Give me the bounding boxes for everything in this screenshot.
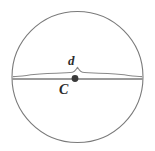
diameter-label: d [68,54,75,67]
diameter-brace-curve [13,67,142,76]
center-label: C [59,83,68,97]
center-point-dot [72,75,79,82]
geometry-figure: d C [0,0,155,151]
circle-diagram-canvas [0,0,155,151]
